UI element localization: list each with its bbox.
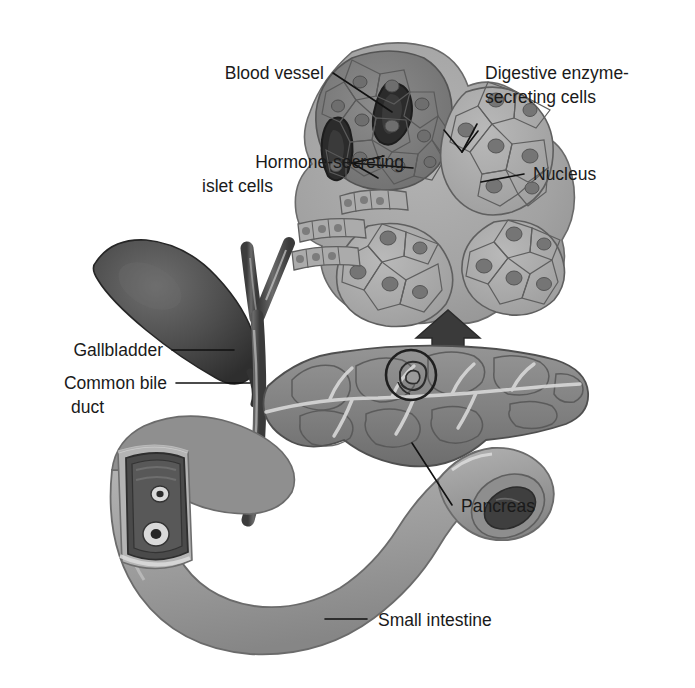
label-nucleus: Nucleus	[533, 164, 596, 184]
label-common-bile-line1: Common bile	[64, 373, 167, 393]
label-blood-vessel: Blood vessel	[225, 63, 324, 83]
label-digestive-enzyme-line2: secreting cells	[485, 87, 596, 107]
label-small-intestine: Small intestine	[378, 610, 492, 630]
pancreas	[264, 346, 589, 467]
anatomy-diagram: Blood vessel Digestive enzyme- secreting…	[0, 0, 695, 688]
figure-canvas: Blood vessel Digestive enzyme- secreting…	[0, 0, 695, 688]
label-gallbladder: Gallbladder	[74, 340, 164, 360]
pancreatic-tissue-inset	[292, 43, 574, 327]
label-digestive-enzyme-line1: Digestive enzyme-	[485, 63, 629, 83]
label-pancreas: Pancreas	[461, 496, 535, 516]
label-common-bile-line2: duct	[71, 397, 104, 417]
label-hormone-line2: islet cells	[202, 176, 273, 196]
label-hormone-line1: Hormone-secreting	[255, 152, 404, 172]
duodenum-cutaway	[118, 446, 192, 569]
hepatic-ducts	[247, 243, 289, 318]
